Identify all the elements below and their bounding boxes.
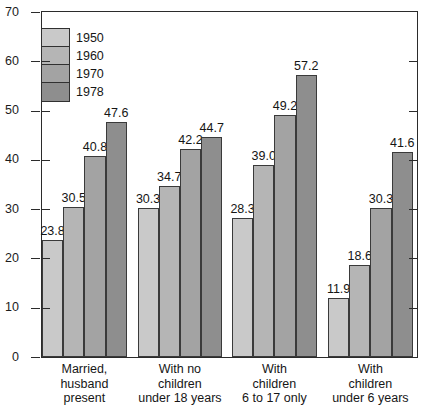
y-tick-mark — [31, 111, 40, 112]
y-tick-label: 40 — [5, 153, 19, 166]
y-tick-mark — [31, 12, 40, 13]
y-tick-label: 10 — [5, 301, 19, 314]
y-tick-mark — [31, 357, 40, 358]
legend-swatch-stack — [41, 28, 70, 102]
y-tick-mark-right — [409, 111, 418, 112]
x-axis-category-line: children — [310, 377, 430, 392]
bar — [63, 207, 84, 357]
bar-group: 30.334.742.244.7 — [138, 12, 223, 357]
y-tick-label: 70 — [5, 6, 19, 19]
legend-label: 1978 — [76, 86, 104, 99]
bar — [296, 75, 317, 357]
bar-value-label: 41.6 — [381, 137, 424, 150]
bar — [106, 122, 127, 357]
y-tick-mark-inner — [41, 308, 50, 309]
y-tick-mark-right — [409, 209, 418, 210]
y-tick-mark — [31, 61, 40, 62]
bar-value-label: 47.6 — [95, 107, 138, 120]
bar-chart: 010203040506070 23.830.540.847.630.334.7… — [0, 0, 431, 410]
x-axis-labels: Married,husbandpresentWith nochildrenund… — [0, 362, 431, 410]
bar — [159, 186, 180, 357]
bar — [232, 218, 253, 357]
bar — [42, 240, 63, 357]
bar — [349, 265, 370, 357]
y-tick-mark-right — [409, 61, 418, 62]
y-tick-mark-inner — [41, 160, 50, 161]
legend-swatch — [42, 47, 69, 65]
y-tick-label: 30 — [5, 203, 19, 216]
bar — [201, 137, 222, 357]
bar — [138, 208, 159, 357]
legend-swatch — [42, 29, 69, 47]
legend-label: 1960 — [76, 50, 104, 63]
y-tick-label: 20 — [5, 252, 19, 265]
bar-value-label: 57.2 — [285, 60, 328, 73]
y-tick-mark — [31, 209, 40, 210]
y-tick-mark — [31, 160, 40, 161]
bar — [253, 165, 274, 357]
y-tick-mark-right — [409, 258, 418, 259]
bar — [370, 208, 391, 357]
y-tick-label: 60 — [5, 55, 19, 68]
y-tick-label: 50 — [5, 104, 19, 117]
plot-area: 23.830.540.847.630.334.742.244.728.339.0… — [42, 12, 417, 357]
bar — [180, 149, 201, 357]
y-tick-mark-inner — [41, 209, 50, 210]
y-tick-mark-inner — [41, 111, 50, 112]
x-axis-category-line: With — [310, 362, 430, 377]
bar — [392, 152, 413, 357]
bar — [84, 156, 105, 357]
bar — [274, 115, 295, 357]
y-tick-mark — [31, 308, 40, 309]
y-tick-mark — [31, 258, 40, 259]
legend-swatch — [42, 65, 69, 83]
y-tick-mark-right — [409, 308, 418, 309]
legend-label: 1970 — [76, 68, 104, 81]
legend-swatch — [42, 83, 69, 101]
y-tick-mark-inner — [41, 61, 50, 62]
y-tick-mark-right — [409, 160, 418, 161]
bar-value-label: 44.7 — [190, 122, 233, 135]
x-axis-category-line: under 6 years — [310, 391, 430, 406]
bar — [328, 298, 349, 357]
bar-group: 28.339.049.257.2 — [232, 12, 317, 357]
legend-label: 1950 — [76, 32, 104, 45]
x-axis-category-label: Withchildrenunder 6 years — [310, 362, 430, 406]
bar-group: 11.918.630.341.6 — [328, 12, 413, 357]
y-tick-mark-inner — [41, 258, 50, 259]
